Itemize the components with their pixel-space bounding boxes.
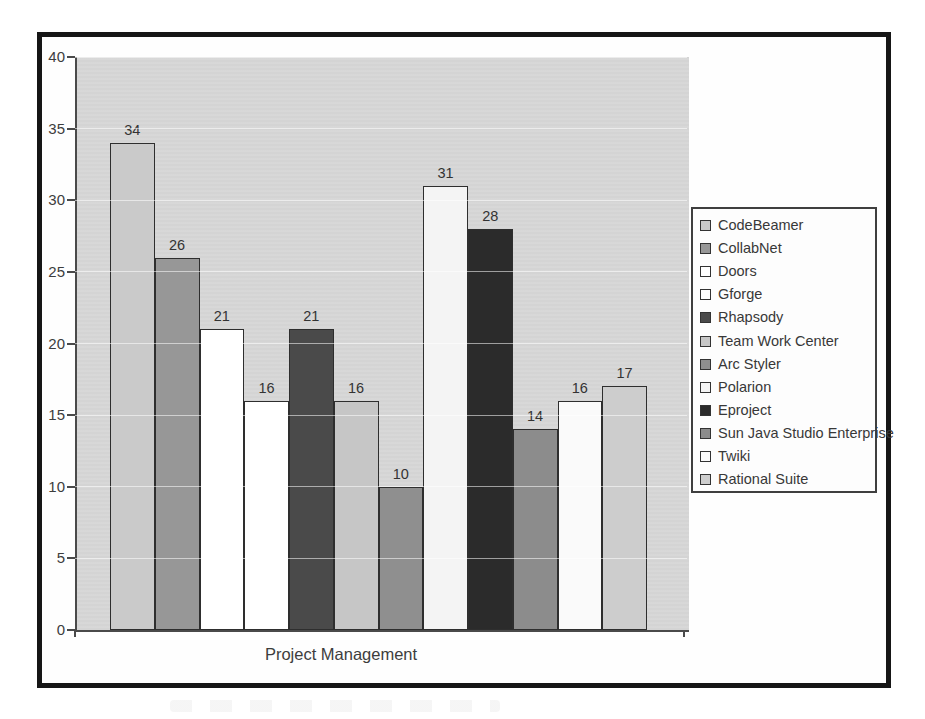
bar-sun-java-studio-enterprise [513,429,558,630]
y-axis-tick-35 [67,128,75,130]
legend-item-eproject: Eproject [700,399,875,422]
legend-swatch-icon [700,359,711,370]
y-axis-tick-10 [67,486,75,488]
x-axis-label: Project Management [231,645,451,664]
y-axis-tick-label-35: 35 [38,121,65,136]
legend-item-twiki: Twiki [700,445,875,468]
bar-polarion [423,186,468,630]
y-axis-tick-40 [67,56,75,58]
legend-swatch-icon [700,405,711,416]
legend-item-rational-suite: Rational Suite [700,468,875,491]
legend-item-sun-java-studio-enterprise: Sun Java Studio Enterprise [700,422,875,445]
legend-label: Rhapsody [718,310,783,325]
legend-swatch-icon [700,428,711,439]
bar-value-label-doors: 21 [200,308,245,324]
bar-doors [200,329,245,630]
legend-item-codebeamer: CodeBeamer [700,214,875,237]
bar-value-label-codebeamer: 34 [110,122,155,138]
y-axis-tick-5 [67,557,75,559]
bar-twiki [558,401,603,630]
y-axis-tick-label-0: 0 [38,622,65,637]
legend-item-gforge: Gforge [700,283,875,306]
bar-rational-suite [602,386,647,630]
legend-label: Team Work Center [718,334,839,349]
bar-value-label-rhapsody: 21 [289,308,334,324]
legend-swatch-icon [700,451,711,462]
y-axis-tick-label-10: 10 [38,479,65,494]
bar-value-label-rational-suite: 17 [602,365,647,381]
legend-swatch-icon [700,289,711,300]
x-axis-tick-end [683,630,685,637]
legend-item-doors: Doors [700,260,875,283]
bar-value-label-team-work-center: 16 [334,380,379,396]
y-axis-tick-label-5: 5 [38,550,65,565]
legend-label: Arc Styler [718,357,781,372]
legend: CodeBeamerCollabNetDoorsGforgeRhapsodyTe… [691,207,877,493]
bar-codebeamer [110,143,155,630]
y-axis-tick-label-15: 15 [38,407,65,422]
bar-value-label-gforge: 16 [244,380,289,396]
legend-label: Doors [718,264,757,279]
legend-item-team-work-center: Team Work Center [700,329,875,352]
legend-swatch-icon [700,312,711,323]
legend-label: CodeBeamer [718,218,803,233]
y-axis-tick-25 [67,271,75,273]
legend-label: Polarion [718,380,771,395]
bar-value-label-polarion: 31 [423,165,468,181]
legend-swatch-icon [700,243,711,254]
y-axis-tick-label-20: 20 [38,336,65,351]
legend-swatch-icon [700,220,711,231]
bar-arc-styler [379,487,424,630]
y-axis-tick-label-25: 25 [38,264,65,279]
legend-swatch-icon [700,266,711,277]
legend-item-polarion: Polarion [700,376,875,399]
legend-item-collabnet: CollabNet [700,237,875,260]
bar-eproject [468,229,513,630]
bar-team-work-center [334,401,379,630]
legend-label: Eproject [718,403,771,418]
y-axis-tick-15 [67,414,75,416]
scanned-chart-page: 0510152025303540 34262116211610312814161… [0,0,925,719]
y-axis-tick-30 [67,199,75,201]
legend-label: Gforge [718,287,762,302]
bar-collabnet [155,258,200,630]
faint-caption-smudge [170,700,500,712]
bar-gforge [244,401,289,630]
legend-swatch-icon [700,382,711,393]
y-axis-tick-label-30: 30 [38,192,65,207]
y-axis-tick-20 [67,343,75,345]
legend-label: Twiki [718,449,750,464]
legend-label: CollabNet [718,241,782,256]
bar-value-label-twiki: 16 [558,380,603,396]
bar-rhapsody [289,329,334,630]
y-axis-tick-label-40: 40 [38,49,65,64]
bar-value-label-sun-java-studio-enterprise: 14 [513,408,558,424]
legend-swatch-icon [700,474,711,485]
legend-label: Sun Java Studio Enterprise [718,426,894,441]
bar-value-label-eproject: 28 [468,208,513,224]
x-axis-tick-start [74,630,76,637]
bar-value-label-arc-styler: 10 [379,466,424,482]
bar-value-label-collabnet: 26 [155,237,200,253]
legend-label: Rational Suite [718,472,808,487]
legend-swatch-icon [700,336,711,347]
legend-item-rhapsody: Rhapsody [700,306,875,329]
legend-item-arc-styler: Arc Styler [700,353,875,376]
